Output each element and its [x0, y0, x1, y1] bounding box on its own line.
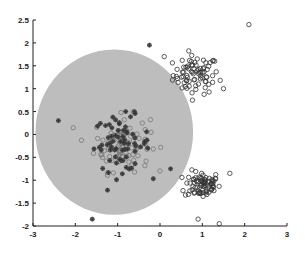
y-tick-label: -1	[22, 176, 30, 185]
point-marker	[221, 86, 225, 90]
point-marker	[196, 217, 200, 221]
y-tick-label: -0.5	[15, 153, 29, 162]
x-tick-label: -1	[114, 230, 122, 239]
point-marker	[203, 85, 207, 89]
point-marker	[190, 168, 194, 172]
y-tick-label: -2	[22, 222, 30, 231]
y-tick-label: 2.5	[18, 16, 30, 25]
point-marker	[217, 184, 221, 188]
point-marker	[190, 98, 194, 102]
point-marker	[180, 58, 184, 62]
point-marker	[180, 175, 184, 179]
point-marker	[207, 90, 211, 94]
point-marker	[170, 61, 174, 65]
point-marker	[183, 193, 187, 197]
x-tick-label: 3	[285, 230, 290, 239]
y-tick-label: 0	[25, 130, 30, 139]
point-marker	[162, 54, 166, 58]
point-marker	[217, 222, 221, 226]
x-tick-label: 0	[158, 230, 163, 239]
y-tick-label: -1.5	[15, 199, 29, 208]
x-tick-label: 1	[200, 230, 205, 239]
point-marker	[228, 171, 232, 175]
point-marker	[187, 79, 191, 83]
x-tick-label: -3	[29, 230, 37, 239]
x-tick-label: 2	[242, 230, 247, 239]
point-marker	[187, 49, 191, 53]
point-marker	[186, 175, 190, 179]
point-marker	[214, 70, 218, 74]
y-tick-label: 1.5	[18, 62, 30, 71]
point-marker	[181, 188, 185, 192]
point-marker	[210, 74, 214, 78]
point-marker	[202, 92, 206, 96]
y-tick-label: 2	[25, 39, 30, 48]
gray-disc	[35, 50, 193, 215]
x-axis-ticks: -3-2-10123	[29, 223, 289, 239]
y-tick-label: 1	[25, 85, 30, 94]
point-marker	[218, 78, 222, 82]
point-marker	[207, 82, 211, 86]
point-marker	[190, 53, 194, 57]
scatter-chart: -3-2-10123 -2-1.5-1-0.500.511.522.5	[0, 0, 305, 256]
point-marker	[175, 67, 179, 71]
y-tick-label: 0.5	[18, 108, 30, 117]
point-marker	[190, 91, 194, 95]
point-marker	[247, 22, 251, 26]
decision-region-disc	[35, 50, 193, 215]
x-tick-label: -2	[72, 230, 80, 239]
